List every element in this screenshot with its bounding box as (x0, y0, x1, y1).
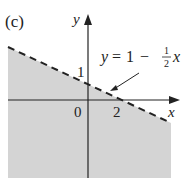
x-tick-label: 2 (113, 104, 121, 120)
y-axis-label: y (71, 11, 80, 27)
y-axis-arrow-icon (84, 14, 92, 25)
origin-label: 0 (74, 104, 82, 120)
svg-text:1: 1 (126, 48, 134, 65)
x-axis-label: x (167, 104, 175, 120)
equation-label: y = 1 − 1 2 x (99, 45, 180, 69)
svg-text:−: − (140, 48, 149, 65)
svg-text:x: x (172, 48, 180, 65)
shaded-region (8, 47, 171, 178)
panel-label: (c) (5, 12, 24, 31)
svg-text:=: = (112, 48, 121, 65)
y-tick-label: 1 (77, 64, 85, 80)
inequality-graph: (c) y x 1 0 2 y = 1 − 1 2 x (0, 0, 191, 190)
svg-text:y: y (99, 48, 109, 66)
annotation-arrow-line (114, 73, 139, 89)
annotation-arrow-icon (110, 85, 118, 91)
svg-text:1: 1 (164, 45, 169, 56)
x-axis-arrow-icon (169, 96, 180, 104)
svg-text:2: 2 (164, 58, 169, 69)
